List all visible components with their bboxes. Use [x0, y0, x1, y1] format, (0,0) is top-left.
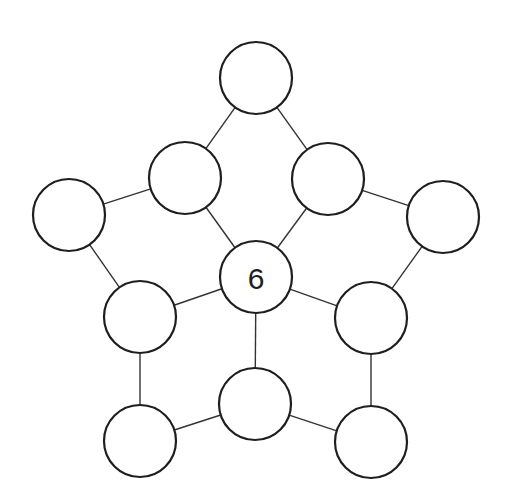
edge-bottom-center-bottom-right: [289, 415, 337, 431]
node-circle[interactable]: [335, 406, 407, 478]
node-circle[interactable]: [220, 42, 292, 114]
edge-center-mid-left: [174, 289, 222, 306]
edge-bottom-left-bottom-center: [174, 415, 220, 430]
edge-upper-right-far-right: [362, 190, 409, 205]
edge-far-right-mid-right: [392, 246, 422, 288]
node-center[interactable]: 6: [220, 241, 292, 313]
edge-center-mid-right: [290, 289, 337, 306]
node-upper-right[interactable]: [292, 143, 364, 215]
node-bottom-right[interactable]: [335, 406, 407, 478]
node-top[interactable]: [220, 42, 292, 114]
puzzle-diagram: 6: [0, 0, 508, 503]
node-mid-left[interactable]: [104, 281, 176, 353]
node-bottom-center[interactable]: [219, 368, 291, 440]
node-upper-left[interactable]: [149, 142, 221, 214]
edge-upper-left-center: [206, 207, 235, 247]
node-circle[interactable]: [407, 181, 479, 253]
edge-upper-right-center: [277, 208, 306, 248]
node-bottom-left[interactable]: [104, 405, 176, 477]
node-far-left[interactable]: [33, 179, 105, 251]
node-circle[interactable]: [149, 142, 221, 214]
edge-far-left-mid-left: [90, 245, 120, 288]
edge-top-upper-right: [277, 107, 307, 149]
node-circle[interactable]: [219, 368, 291, 440]
edge-top-upper-left: [206, 107, 235, 148]
node-mid-right[interactable]: [335, 282, 407, 354]
node-far-right[interactable]: [407, 181, 479, 253]
edge-upper-left-far-left: [103, 189, 150, 204]
node-circle[interactable]: [33, 179, 105, 251]
node-circle[interactable]: [104, 405, 176, 477]
node-circle[interactable]: [104, 281, 176, 353]
node-circle[interactable]: [335, 282, 407, 354]
node-circle[interactable]: [292, 143, 364, 215]
node-label: 6: [248, 262, 265, 295]
